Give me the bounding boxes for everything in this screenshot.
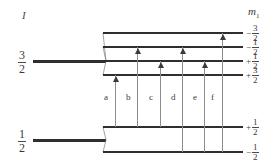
fraction: 12 [18, 128, 26, 154]
transition-arrowhead-a [113, 76, 119, 82]
fan-line-upper-1 [103, 47, 106, 61]
fraction: 32 [18, 49, 26, 75]
transition-arrowhead-c [158, 62, 164, 68]
transition-label-f: f [211, 92, 214, 102]
lower-level-label-0: +12 [246, 118, 259, 138]
transition-line-b [137, 47, 138, 127]
trunk-line-0 [33, 60, 106, 63]
fraction-numerator: 1 [18, 128, 26, 142]
transition-line-e [204, 61, 205, 152]
transition-label-d: d [171, 92, 176, 102]
right-axis-label-m-text: m [248, 5, 256, 17]
transition-arrowhead-b [135, 48, 141, 54]
fraction-denominator: 2 [252, 76, 259, 85]
fraction-denominator: 2 [252, 153, 259, 162]
right-axis-label-sub: 1 [256, 12, 260, 20]
right-axis-label-m1: m1 [248, 6, 259, 20]
transition-line-a [115, 75, 116, 127]
fraction: 12 [252, 143, 259, 163]
left-state-label-1: 12 [18, 128, 26, 154]
fraction-denominator: 2 [252, 128, 259, 137]
fraction-denominator: 2 [18, 63, 26, 76]
transition-arrowhead-f [220, 34, 226, 40]
transition-line-d [182, 47, 183, 152]
transition-line-f [222, 33, 223, 152]
transition-label-b: b [126, 92, 131, 102]
level-sign: + [246, 71, 251, 80]
fraction-denominator: 2 [18, 142, 26, 155]
transition-arrowhead-d [180, 48, 186, 54]
lower-level-label-1: −12 [246, 143, 259, 163]
level-sign: − [246, 148, 251, 157]
fraction-numerator: 3 [18, 49, 26, 63]
upper-level-label-3: +32 [246, 66, 259, 86]
transition-line-c [160, 61, 161, 127]
left-state-label-0: 32 [18, 49, 26, 75]
transition-arrowhead-e [202, 62, 208, 68]
fan-line-upper-3 [103, 61, 106, 75]
trunk-line-1 [33, 139, 106, 142]
transition-label-a: a [104, 92, 108, 102]
level-sign: + [246, 123, 251, 132]
left-axis-label-I: I [22, 10, 26, 21]
fraction: 12 [252, 118, 259, 138]
energy-level-diagram: I m1 3212 −32−12+12+32 +12−12 abcdef [0, 0, 275, 166]
transition-label-c: c [149, 92, 153, 102]
fraction: 32 [252, 66, 259, 86]
transition-label-e: e [193, 92, 197, 102]
